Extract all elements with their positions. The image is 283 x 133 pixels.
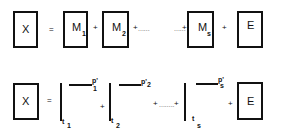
plus-sign: +: [174, 100, 179, 108]
equals-sign: =: [47, 97, 52, 105]
matrix-m1-label: M: [72, 22, 81, 33]
loading-vector-p1: [69, 84, 92, 86]
score-subscript-t2: 2: [116, 122, 120, 129]
plus-sign: +: [100, 103, 105, 111]
ellipsis: ........: [159, 101, 175, 108]
matrix-m2-label: M: [112, 22, 121, 33]
loading-label-p1: p': [92, 77, 98, 84]
loading-vector-ps: [196, 83, 218, 85]
ellipsis: ......: [138, 25, 150, 32]
score-label-t2: t: [111, 117, 113, 124]
score-label-ts: t: [192, 115, 194, 122]
loading-subscript-ps: s: [220, 82, 224, 89]
plus-sign: +: [182, 24, 187, 32]
plus-sign: +: [133, 24, 138, 32]
loading-subscript-p1: 1: [93, 85, 97, 92]
matrix-ms-label: M: [198, 22, 207, 33]
score-vector-ts: [184, 83, 186, 121]
score-label-t1: t: [62, 118, 64, 125]
score-subscript-ts: s: [197, 122, 201, 129]
matrix-x-label: X: [22, 24, 29, 35]
loading-subscript-p2: 2: [147, 81, 151, 88]
plus-sign: +: [228, 100, 233, 108]
matrix-e-label: E: [247, 96, 254, 107]
score-vector-t1: [60, 83, 62, 121]
plus-sign: +: [222, 24, 227, 32]
matrix-x-label: X: [22, 96, 29, 107]
matrix-ms-subscript: s: [207, 30, 211, 37]
matrix-e-label: E: [247, 20, 254, 31]
equals-sign: =: [49, 26, 54, 34]
matrix-m1-subscript: 1: [82, 30, 86, 37]
score-subscript-t1: 1: [67, 122, 71, 129]
matrix-m2-subscript: 2: [122, 30, 126, 37]
score-vector-t2: [109, 83, 111, 121]
loading-vector-p2: [119, 84, 141, 86]
plus-sign: +: [153, 100, 158, 108]
plus-sign: +: [93, 24, 98, 32]
